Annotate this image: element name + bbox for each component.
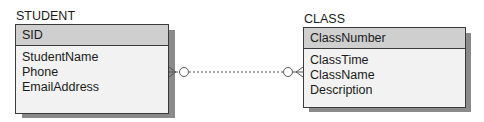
zero-optional-circle-icon xyxy=(180,68,189,77)
crows-foot-icon xyxy=(169,67,178,77)
relationship-connector[interactable] xyxy=(0,0,484,122)
zero-optional-circle-icon xyxy=(284,68,293,77)
crows-foot-icon xyxy=(293,67,303,77)
